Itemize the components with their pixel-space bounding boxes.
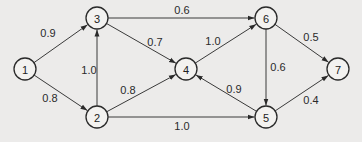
node-4: 4 <box>175 58 197 80</box>
node-5: 5 <box>255 106 277 128</box>
edge-2-to-4-arrow <box>107 74 176 111</box>
edge-weight-label: 0.4 <box>303 94 318 106</box>
node-label: 5 <box>263 112 269 124</box>
edge-weight-label: 0.9 <box>40 27 55 39</box>
node-label: 6 <box>263 13 269 25</box>
node-label: 1 <box>22 64 28 76</box>
edge-weight-label: 0.5 <box>303 31 318 43</box>
edge-weight-label: 0.8 <box>120 84 135 96</box>
node-label: 2 <box>94 112 100 124</box>
nodes-layer: 1234567 <box>14 7 349 128</box>
node-label: 3 <box>94 13 100 25</box>
node-1: 1 <box>14 58 36 80</box>
edge-weight-label: 0.8 <box>42 92 57 104</box>
edge-weight-label: 0.7 <box>147 36 162 48</box>
edge-6-to-7-arrow <box>275 24 329 62</box>
node-3: 3 <box>86 7 108 29</box>
edge-weight-label: 1.0 <box>81 64 96 76</box>
node-label: 4 <box>183 64 189 76</box>
edge-weight-label: 0.6 <box>174 4 189 16</box>
node-6: 6 <box>255 7 277 29</box>
node-2: 2 <box>86 106 108 128</box>
network-graph: 0.90.81.00.70.80.61.01.00.90.60.50.4 123… <box>0 0 362 142</box>
edge-weight-label: 1.0 <box>174 120 189 132</box>
edge-weight-label: 0.9 <box>226 83 241 95</box>
edge-5-to-7-arrow <box>275 75 328 111</box>
edge-weight-label: 0.6 <box>270 61 285 73</box>
node-label: 7 <box>335 64 341 76</box>
edge-weight-label: 1.0 <box>205 35 220 47</box>
edge-3-to-4-arrow <box>107 23 176 63</box>
node-7: 7 <box>327 58 349 80</box>
